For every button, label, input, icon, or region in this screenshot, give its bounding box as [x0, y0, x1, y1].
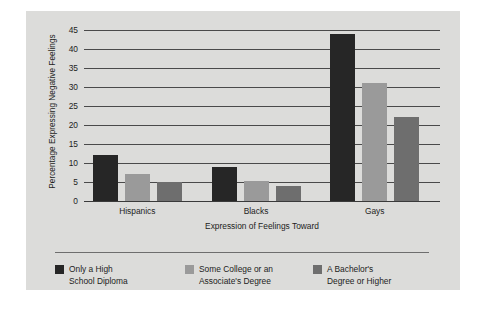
y-axis-tick-label: 45 [69, 25, 78, 35]
bar [244, 181, 269, 201]
legend-label: A Bachelor's Degree or Higher [327, 264, 391, 287]
legend-swatch-icon [313, 265, 322, 274]
bar [330, 34, 355, 201]
legend-swatch-icon [55, 265, 64, 274]
legend-swatch-icon [185, 265, 194, 274]
bar [276, 186, 301, 201]
y-axis-tick-label: 30 [69, 82, 78, 92]
bar [93, 155, 118, 201]
y-axis-tick-label: 40 [69, 44, 78, 54]
bar [394, 117, 419, 201]
bar [125, 174, 150, 201]
x-axis-category-label: Hispanics [119, 206, 155, 216]
plot-area: 051015202530354045 HispanicsBlacksGays [84, 30, 440, 201]
x-axis-category-label: Gays [365, 206, 385, 216]
chart-figure: Percentage Expressing Negative Feelings … [26, 11, 460, 290]
y-axis-tick-label: 5 [73, 177, 78, 187]
gridline [84, 30, 440, 31]
legend-item[interactable]: Only a High School Diploma [55, 264, 128, 287]
y-axis-tick-label: 10 [69, 158, 78, 168]
bar [157, 182, 182, 201]
gridline [84, 68, 440, 69]
legend-label: Some College or an Associate's Degree [199, 264, 273, 287]
legend-item[interactable]: Some College or an Associate's Degree [185, 264, 273, 287]
y-axis-tick-label: 0 [73, 196, 78, 206]
x-axis-line [84, 201, 440, 202]
gridline [84, 49, 440, 50]
y-axis-tick-label: 15 [69, 139, 78, 149]
bar [362, 83, 387, 201]
legend-label: Only a High School Diploma [69, 264, 128, 287]
chart-legend: Only a High School DiplomaSome College o… [55, 264, 435, 298]
legend-item[interactable]: A Bachelor's Degree or Higher [313, 264, 391, 287]
y-axis-tick-label: 35 [69, 63, 78, 73]
legend-divider [55, 252, 429, 253]
y-axis-tick-label: 25 [69, 101, 78, 111]
y-axis-tick-label: 20 [69, 120, 78, 130]
bar [212, 167, 237, 201]
y-axis-title: Percentage Expressing Negative Feelings [48, 32, 57, 192]
x-axis-category-label: Blacks [244, 206, 269, 216]
x-axis-title: Expression of Feelings Toward [84, 221, 440, 231]
